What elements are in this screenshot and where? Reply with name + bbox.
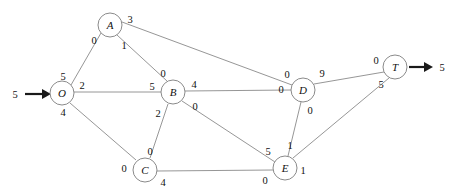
graph-canvas: O A B C D E T 5 0 2 5 4 0 1 0 3 0 [0,0,455,196]
edge-label-D-E-head: 1 [287,140,292,151]
edge-label-B-C-head: 0 [147,146,152,157]
node-label-T: T [392,61,399,73]
edge-label-B-D-tail: 4 [191,79,197,90]
node-label-A: A [106,19,114,31]
edges-layer [70,22,389,171]
terminal-arrows-layer [25,62,433,99]
node-label-B: B [170,86,177,98]
edge-B-D [185,90,291,91]
edge-label-D-T-tail: 9 [319,68,324,79]
edge-label-B-D-head: 0 [278,84,283,95]
sink-arrow-head [424,62,433,72]
edge-O-C [70,103,136,160]
edge-label-O-A-head: 0 [91,35,96,46]
edge-label-O-B-tail: 2 [79,80,84,91]
node-label-O: O [58,87,66,99]
edge-label-O-A-tail: 5 [60,71,65,82]
edge-label-A-B-head: 0 [160,68,165,79]
node-label-C: C [141,164,149,176]
sink-flow-label: 5 [439,62,444,73]
edge-label-O-B-head: 5 [149,81,154,92]
node-label-E: E [281,162,289,174]
edge-C-E [157,170,273,171]
edge-label-C-E-tail: 4 [160,177,166,188]
edge-label-D-T-head: 0 [373,55,378,66]
node-label-D: D [298,84,307,96]
edge-label-C-E-head: 0 [262,175,267,186]
nodes-layer: O A B C D E T [50,13,407,182]
edge-label-A-D-tail: 3 [127,14,132,25]
edge-label-E-T-tail: 1 [300,165,305,176]
edge-label-A-B-tail: 1 [121,40,126,51]
source-flow-label: 5 [12,89,17,100]
edge-label-A-D-head: 0 [284,69,289,80]
edge-label-E-T-head: 5 [378,79,383,90]
edge-label-O-C-tail: 4 [60,107,66,118]
edge-label-B-E-head: 5 [265,146,270,157]
edge-label-O-C-head: 0 [121,163,126,174]
edge-label-B-E-tail: 0 [192,101,197,112]
edge-label-D-E-tail: 0 [307,105,312,116]
network-flow-diagram: O A B C D E T 5 0 2 5 4 0 1 0 3 0 [0,0,455,196]
edge-label-B-C-tail: 2 [155,108,160,119]
edge-A-D [122,22,292,85]
edge-labels-layer: 5 0 2 5 4 0 1 0 3 0 2 0 4 0 0 5 4 0 0 1 … [60,14,383,188]
